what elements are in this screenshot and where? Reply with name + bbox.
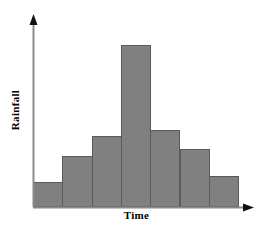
y-axis-label-text: Rainfall [9, 90, 21, 130]
x-axis-label-text: Time [124, 209, 149, 221]
bar-7 [209, 176, 239, 207]
y-axis-label: Rainfall [4, 75, 26, 145]
bars-layer [0, 0, 270, 233]
x-axis-label: Time [0, 209, 270, 221]
bar-6 [180, 149, 210, 207]
bar-4 [121, 45, 151, 207]
bar-1 [33, 182, 63, 207]
plot-area: Rainfall Time [0, 0, 270, 233]
rainfall-bar-chart: Rainfall Time [0, 0, 270, 233]
bar-2 [62, 156, 92, 207]
bar-3 [92, 136, 122, 207]
bar-5 [150, 130, 180, 207]
